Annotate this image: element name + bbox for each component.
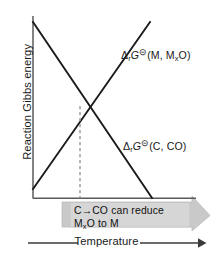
- gibbs-symbol: G: [131, 49, 139, 61]
- species-open: (M, M: [147, 49, 175, 61]
- standard-state-icon: ⊝: [139, 47, 147, 57]
- curve-label-carbon-co: ΔrG⊝(C, CO): [123, 141, 186, 152]
- delta-subscript-r: r: [128, 54, 131, 63]
- reduction-line-1-rest: CO can reduce: [92, 205, 164, 216]
- delta-subscript-r: r: [130, 145, 133, 154]
- reduction-line-1: C→CO can reduce: [74, 205, 164, 216]
- metal-subscript-x: x: [83, 222, 87, 231]
- species-open: (C, CO): [149, 140, 186, 152]
- carbon-symbol: C: [74, 205, 82, 216]
- reduction-arrow-label: C→CO can reduce MxO to M: [74, 204, 164, 231]
- standard-state-icon: ⊝: [141, 138, 149, 148]
- reduction-line-2: MxO to M: [74, 217, 164, 231]
- gibbs-symbol: G: [133, 140, 141, 152]
- metal-symbol: M: [74, 218, 83, 229]
- ellingham-diagram-figure: Reaction Gibbs energy ΔrG⊝(M, MxO) ΔrG⊝(…: [0, 0, 213, 257]
- reduction-line-2-rest: O to M: [87, 218, 119, 229]
- x-axis-title: Temperature: [0, 236, 213, 248]
- species-close: O): [179, 49, 191, 61]
- species-subscript-x: x: [175, 54, 179, 63]
- y-axis-title: Reaction Gibbs energy: [22, 22, 34, 182]
- right-arrow-icon: →: [82, 205, 93, 216]
- curve-label-metal-oxide: ΔrG⊝(M, MxO): [121, 50, 191, 61]
